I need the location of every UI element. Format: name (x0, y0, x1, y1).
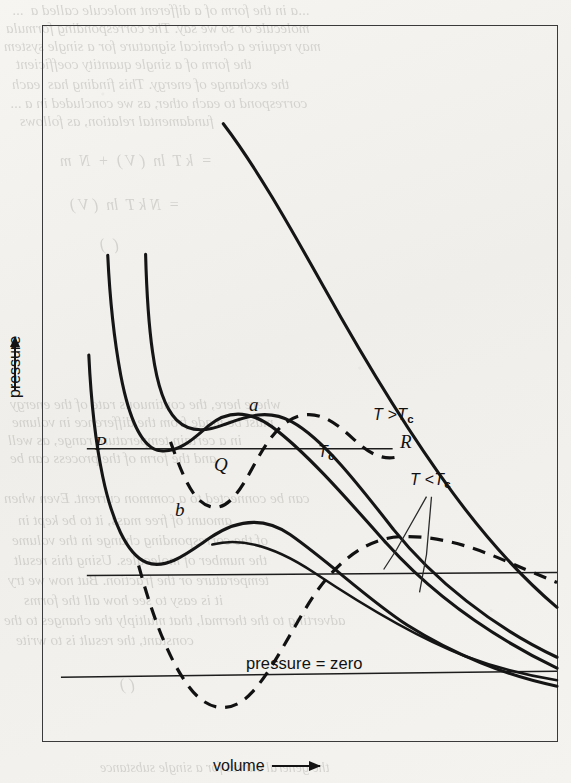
point-label-Q: Q (214, 455, 228, 474)
point-label-P: P (95, 434, 107, 453)
plot-svg (43, 26, 557, 741)
x-axis-arrow-icon (309, 761, 321, 771)
pv-isotherm-plot: P Q R a b T >Tc Tc T <Tc pressure = zero (43, 26, 557, 741)
x-axis-label-group: volume (213, 757, 320, 775)
x-axis-arrow-shaft (272, 765, 320, 767)
isotherm-above-critical (223, 124, 557, 608)
label-T-below-Tc-text: T <T (410, 471, 444, 488)
label-T-below-Tc-sub: c (444, 478, 451, 490)
label-Tc-sub: c (328, 450, 335, 462)
label-T-below-Tc: T <Tc (410, 472, 451, 490)
label-pressure-zero: pressure = zero (246, 655, 363, 672)
point-label-R: R (400, 432, 412, 451)
label-Tc-text: T (318, 443, 328, 460)
pressure-zero-line (61, 671, 557, 677)
figure-frame: P Q R a b T >Tc Tc T <Tc pressure = zero (42, 25, 558, 742)
label-T-above-Tc-sub: c (407, 413, 414, 425)
tie-line-lower (87, 572, 557, 575)
point-label-b: b (175, 500, 185, 519)
point-label-a: a (249, 395, 259, 414)
isotherm-below-critical-2 (89, 355, 557, 686)
y-axis-label: pressure (6, 336, 24, 398)
label-Tc: Tc (318, 444, 335, 462)
x-axis-label: volume (213, 757, 265, 775)
label-T-above-Tc: T >Tc (373, 407, 414, 425)
label-T-above-Tc-text: T >T (373, 406, 407, 423)
